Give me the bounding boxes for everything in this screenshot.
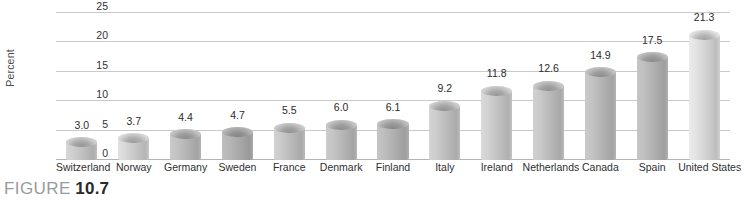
x-axis-label: Italy [419, 161, 471, 174]
caption-word: FIGURE [4, 179, 71, 198]
bar-body [326, 125, 357, 160]
bar[interactable]: 14.9 [585, 67, 616, 160]
bar-slot: 4.4 [170, 0, 201, 160]
bar-value-label: 3.0 [52, 120, 111, 131]
x-axis-label: Finland [367, 161, 419, 174]
bar-slot: 14.9 [585, 0, 616, 160]
bar-slot: 11.8 [481, 0, 512, 160]
bar[interactable]: 3.0 [66, 137, 97, 160]
x-axis-label: Canada [574, 161, 626, 174]
bar-value-label: 17.5 [623, 35, 682, 46]
bar-top-ellipse [326, 120, 357, 130]
bar-body [429, 106, 460, 160]
bar-slot: 3.0 [66, 0, 97, 160]
y-axis-title: Percent [4, 40, 16, 96]
caption-number: 10.7 [75, 179, 109, 198]
bar-slot: 9.2 [429, 0, 460, 160]
x-axis-label: Norway [108, 161, 160, 174]
bar-slot: 5.5 [274, 0, 305, 160]
bar-value-label: 6.1 [363, 102, 422, 113]
x-axis-label: Switzerland [56, 161, 108, 174]
bar[interactable]: 11.8 [481, 86, 512, 160]
bar-body [377, 124, 408, 160]
bar[interactable]: 17.5 [637, 52, 668, 160]
x-axis-label: Ireland [471, 161, 523, 174]
bar-body [533, 86, 564, 160]
bar-body [585, 72, 616, 160]
bar-top-ellipse [429, 101, 460, 111]
bar-body [481, 91, 512, 160]
bar[interactable]: 6.0 [326, 120, 357, 160]
x-axis-label: Netherlands [523, 161, 575, 174]
bar-top-ellipse [377, 119, 408, 129]
bar[interactable]: 12.6 [533, 81, 564, 160]
figure-container: Percent 0510152025 3.03.74.44.75.56.06.1… [0, 0, 744, 202]
bar-slot: 21.3 [689, 0, 720, 160]
bar-slot: 6.0 [326, 0, 357, 160]
bar-value-label: 9.2 [415, 83, 474, 94]
bar-body [637, 57, 668, 160]
bar-slot: 3.7 [118, 0, 149, 160]
bar-slot: 17.5 [637, 0, 668, 160]
x-axis-label: Sweden [212, 161, 264, 174]
bar-value-label: 5.5 [260, 105, 319, 116]
bar[interactable]: 4.4 [170, 129, 201, 160]
bar-value-label: 12.6 [519, 63, 578, 74]
bar[interactable]: 9.2 [429, 101, 460, 160]
bar[interactable]: 21.3 [689, 30, 720, 160]
bar[interactable]: 4.7 [222, 127, 253, 160]
bar-top-ellipse [481, 86, 512, 96]
x-axis-label: United States [678, 161, 730, 174]
bar-value-label: 4.7 [208, 110, 267, 121]
bar[interactable]: 5.5 [274, 123, 305, 160]
bar-value-label: 11.8 [467, 68, 526, 79]
x-axis-label: Spain [626, 161, 678, 174]
bar-slot: 6.1 [377, 0, 408, 160]
x-axis-labels-group: SwitzerlandNorwayGermanySwedenFranceDenm… [56, 161, 730, 177]
figure-caption: FIGURE 10.7 [4, 179, 109, 199]
bar-slot: 4.7 [222, 0, 253, 160]
bar-value-label: 21.3 [675, 12, 734, 23]
bar-top-ellipse [533, 81, 564, 91]
bar-slot: 12.6 [533, 0, 564, 160]
bar-value-label: 3.7 [104, 116, 163, 127]
bars-group: 3.03.74.44.75.56.06.19.211.812.614.917.5… [56, 0, 730, 160]
bar-top-ellipse [637, 52, 668, 62]
x-axis-label: Denmark [315, 161, 367, 174]
bar-body [689, 35, 720, 160]
x-axis-label: France [263, 161, 315, 174]
bar-top-ellipse [274, 123, 305, 133]
x-axis-label: Germany [160, 161, 212, 174]
bar-value-label: 14.9 [571, 50, 630, 61]
bar-top-ellipse [689, 30, 720, 40]
chart-plot-area: Percent 0510152025 3.03.74.44.75.56.06.1… [0, 0, 744, 172]
bar-value-label: 6.0 [312, 102, 371, 113]
bar-value-label: 4.4 [156, 112, 215, 123]
bar[interactable]: 6.1 [377, 119, 408, 160]
bar[interactable]: 3.7 [118, 133, 149, 160]
